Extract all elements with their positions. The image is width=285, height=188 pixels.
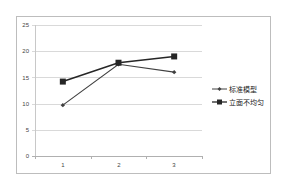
y-tick-20: 20 — [22, 48, 29, 54]
line-chart: 0 5 10 15 20 25 1 2 3 标准模型 立面不均匀 — [0, 0, 285, 188]
x-axis-labels: 1 2 3 — [61, 162, 176, 168]
y-tick-10: 10 — [22, 101, 29, 107]
square-marker-icon — [217, 100, 222, 105]
y-tick-15: 15 — [22, 75, 29, 81]
legend-item-standard-model: 标准模型 — [212, 85, 257, 94]
x-tick-2: 2 — [117, 162, 121, 168]
gridlines — [32, 25, 203, 159]
square-marker-icon — [171, 53, 177, 59]
series-line — [63, 64, 174, 105]
x-tick-3: 3 — [172, 162, 176, 168]
diamond-marker-icon — [218, 87, 222, 91]
square-marker-icon — [60, 79, 66, 85]
diamond-marker-icon — [172, 70, 176, 74]
legend-label-standard-model: 标准模型 — [229, 85, 257, 94]
y-tick-0: 0 — [26, 153, 30, 159]
series-lines — [60, 53, 177, 107]
y-tick-25: 25 — [22, 22, 29, 28]
legend: 标准模型 立面不均匀 — [212, 85, 264, 107]
y-tick-5: 5 — [26, 127, 30, 133]
square-marker-icon — [116, 60, 122, 66]
x-tick-1: 1 — [61, 162, 65, 168]
legend-label-facade-irregular: 立面不均匀 — [229, 98, 264, 107]
y-axis-labels: 0 5 10 15 20 25 — [22, 22, 29, 159]
legend-item-facade-irregular: 立面不均匀 — [212, 98, 264, 107]
